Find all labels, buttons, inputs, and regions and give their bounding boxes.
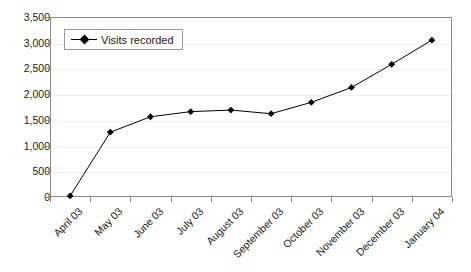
y-axis-tick-mark — [45, 17, 50, 18]
y-axis: 05001,0001,5002,0002,5003,0003,500 — [0, 0, 50, 272]
x-axis-tick-label: August 03 — [203, 205, 245, 247]
legend: Visits recorded — [64, 29, 183, 50]
x-axis-tick-mark — [171, 197, 172, 202]
x-axis-tick-label: May 03 — [92, 205, 125, 238]
x-axis-tick-label: July 03 — [173, 205, 205, 237]
y-axis-tick-label: 3,500 — [6, 12, 50, 23]
y-axis-tick-mark — [45, 146, 50, 147]
x-axis-tick-mark — [211, 197, 212, 202]
y-axis-tick-label: 2,500 — [6, 63, 50, 74]
legend-label-visits-recorded: Visits recorded — [101, 34, 174, 46]
x-axis-tick-mark — [331, 197, 332, 202]
gridline — [51, 69, 451, 70]
gridline — [51, 172, 451, 173]
x-axis-tick-mark — [372, 197, 373, 202]
y-axis-tick-mark — [45, 43, 50, 44]
y-axis-tick-mark — [45, 68, 50, 69]
x-axis-tick-mark — [412, 197, 413, 202]
y-axis-tick-label: 1,500 — [6, 114, 50, 125]
y-axis-tick-label: 2,000 — [6, 89, 50, 100]
x-axis-tick-label: June 03 — [130, 205, 165, 240]
y-axis-tick-label: 3,000 — [6, 37, 50, 48]
gridline — [51, 95, 451, 96]
chart-container: 05001,0001,5002,0002,5003,0003,500 April… — [0, 0, 471, 272]
x-axis-tick-label: January 04 — [401, 205, 446, 250]
x-axis-tick-mark — [50, 197, 51, 202]
x-axis-tick-mark — [452, 197, 453, 202]
x-axis-tick-label: April 03 — [51, 205, 85, 239]
y-axis-tick-label: 0 — [6, 192, 50, 203]
gridline — [51, 121, 451, 122]
y-axis-tick-mark — [45, 94, 50, 95]
gridline — [51, 147, 451, 148]
x-axis-tick-mark — [90, 197, 91, 202]
y-axis-tick-mark — [45, 171, 50, 172]
legend-marker-icon — [71, 34, 97, 46]
y-axis-tick-mark — [45, 120, 50, 121]
x-axis-tick-mark — [251, 197, 252, 202]
y-axis-tick-label: 500 — [6, 166, 50, 177]
x-axis-tick-mark — [291, 197, 292, 202]
x-axis-tick-mark — [130, 197, 131, 202]
y-axis-tick-label: 1,000 — [6, 140, 50, 151]
